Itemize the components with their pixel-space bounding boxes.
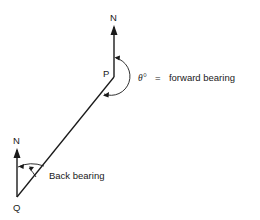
forward-bearing-text: forward bearing	[169, 72, 235, 83]
point-q-label: Q	[13, 202, 20, 213]
back-bearing-arc-inner	[29, 168, 36, 177]
arrowhead-icon	[111, 25, 118, 35]
north-label-bottom: N	[13, 135, 20, 146]
point-p-label: P	[103, 68, 109, 79]
north-arrow-q	[14, 148, 21, 197]
forward-bearing-label: θ° = forward bearing	[138, 67, 235, 84]
north-arrow-p	[111, 25, 118, 77]
theta-symbol: θ°	[138, 73, 147, 83]
bearing-diagram: N P θ° = forward bearing N Q Back bearin…	[0, 0, 260, 220]
arc-arrow-icon	[103, 92, 109, 98]
north-label-top: N	[110, 12, 117, 23]
arc-arrow-icon	[19, 164, 25, 169]
arrowhead-icon	[14, 148, 21, 158]
back-bearing-label: Back bearing	[49, 170, 104, 181]
arc-arrow-icon	[115, 56, 121, 61]
equals-sign: =	[155, 72, 161, 83]
